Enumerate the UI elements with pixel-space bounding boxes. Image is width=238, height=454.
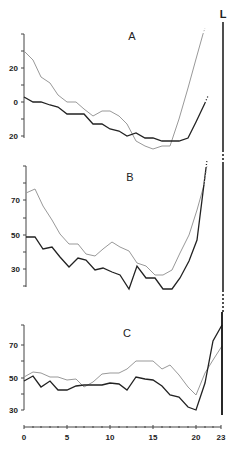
panel-b-label: B bbox=[126, 171, 133, 183]
x-tick-5: 5 bbox=[65, 433, 70, 442]
panel-a-tick-0: 0 bbox=[14, 98, 19, 107]
panel-a-dark-series bbox=[24, 97, 205, 141]
panel-a-dark-dotted-extension bbox=[205, 96, 208, 103]
panel-a-tick-neg20: 20 bbox=[9, 132, 18, 141]
panel-c: 70 50 30 C bbox=[9, 325, 222, 415]
panel-c-tick-50: 50 bbox=[9, 374, 18, 383]
panel-a-light-series bbox=[24, 34, 203, 149]
x-tick-23: 23 bbox=[217, 433, 226, 442]
panel-a: 20 0 20 A bbox=[9, 28, 208, 149]
l-marker-label: L bbox=[220, 8, 227, 20]
panel-b-tick-50: 50 bbox=[11, 231, 20, 240]
panel-b-dark-series bbox=[26, 168, 206, 289]
chart-figure: 20 0 20 A 70 50 30 B bbox=[0, 0, 238, 454]
l-marker: L bbox=[220, 8, 227, 415]
x-tick-10: 10 bbox=[106, 433, 115, 442]
panel-c-tick-70: 70 bbox=[9, 341, 18, 350]
panel-b-light-series bbox=[26, 185, 204, 275]
panel-a-tick-20: 20 bbox=[9, 64, 18, 73]
x-tick-20: 20 bbox=[192, 433, 201, 442]
panel-c-label: C bbox=[123, 327, 131, 339]
panel-b-tick-70: 70 bbox=[11, 196, 20, 205]
panel-a-label: A bbox=[128, 30, 136, 42]
x-tick-0: 0 bbox=[22, 433, 27, 442]
panel-b: 70 50 30 B bbox=[11, 160, 207, 289]
x-axis: 0 5 10 15 20 23 bbox=[22, 425, 226, 442]
x-tick-15: 15 bbox=[149, 433, 158, 442]
panel-c-tick-30: 30 bbox=[9, 406, 18, 415]
panel-b-tick-30: 30 bbox=[11, 265, 20, 274]
panel-a-light-dotted-extension bbox=[203, 28, 205, 34]
